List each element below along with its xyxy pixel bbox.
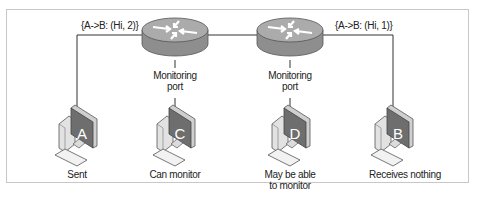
host-a-computer-icon: A <box>55 105 97 166</box>
port-label-line1: Monitoring <box>145 70 205 81</box>
port-label-line2: port <box>145 81 205 92</box>
caption-line2: to monitor <box>255 180 325 191</box>
host-d-letter: D <box>290 125 301 142</box>
host-b-computer-icon: B <box>371 105 413 166</box>
caption-line1: May be able <box>255 169 325 180</box>
host-a-letter: A <box>77 125 87 142</box>
packet-label-right: {A->B: (Hi, 1)} <box>335 20 392 31</box>
host-d-computer-icon: D <box>268 105 310 166</box>
host-b-caption: Receives nothing <box>360 169 450 180</box>
host-c-caption: Can monitor <box>140 169 210 180</box>
host-b-letter: B <box>393 125 403 142</box>
host-d-caption: May be able to monitor <box>255 169 325 191</box>
router-1-port-label: Monitoring port <box>145 70 205 92</box>
host-c-letter: C <box>175 125 186 142</box>
host-c-computer-icon: C <box>153 105 195 166</box>
caption-line1: Can monitor <box>140 169 210 180</box>
network-links <box>77 35 393 112</box>
router-1-icon <box>142 18 208 56</box>
caption-line1: Receives nothing <box>360 169 450 180</box>
caption-line1: Sent <box>47 169 107 180</box>
host-a-caption: Sent <box>47 169 107 180</box>
packet-label-left: {A->B: (Hi, 2)} <box>81 20 138 31</box>
port-label-line1: Monitoring <box>260 70 320 81</box>
router-2-port-label: Monitoring port <box>260 70 320 92</box>
router-2-icon <box>257 18 323 56</box>
port-label-line2: port <box>260 81 320 92</box>
